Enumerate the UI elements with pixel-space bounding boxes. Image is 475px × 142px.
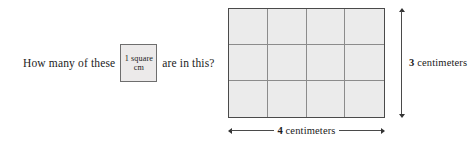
question-text-after: are in this? <box>162 57 214 69</box>
rectangle-grid <box>228 8 385 118</box>
grid-cell <box>345 81 384 117</box>
question-statement: How many of these 1 square cm are in thi… <box>23 44 215 82</box>
height-dimension-arrow-icon <box>396 8 407 118</box>
height-unit: centimeters <box>417 57 467 68</box>
grid-cell <box>268 9 307 45</box>
arrowhead-down-icon <box>399 114 405 118</box>
grid-cell <box>229 9 268 45</box>
grid-cell <box>307 81 346 117</box>
unit-square-swatch: 1 square cm <box>120 44 157 82</box>
grid-cell <box>345 9 384 45</box>
width-dimension-label: 4 centimeters <box>228 125 385 136</box>
grid-cell <box>229 45 268 81</box>
width-unit: centimeters <box>286 125 336 136</box>
height-value: 3 <box>409 57 414 68</box>
grid-cell <box>268 45 307 81</box>
unit-square-label-line2: cm <box>134 63 144 72</box>
arrow-shaft <box>401 11 402 115</box>
area-model-figure: How many of these 1 square cm are in thi… <box>0 0 475 142</box>
grid-cell <box>307 45 346 81</box>
width-value: 4 <box>277 125 282 136</box>
height-dimension-label: 3 centimeters <box>409 57 467 68</box>
question-text-before: How many of these <box>23 57 115 69</box>
grid-cell <box>307 9 346 45</box>
grid-cell <box>268 81 307 117</box>
grid-cell <box>345 45 384 81</box>
unit-square-label-line1: 1 square <box>125 54 153 63</box>
grid-cell <box>229 81 268 117</box>
width-dimension-label-wrap: 4 centimeters <box>228 125 385 136</box>
